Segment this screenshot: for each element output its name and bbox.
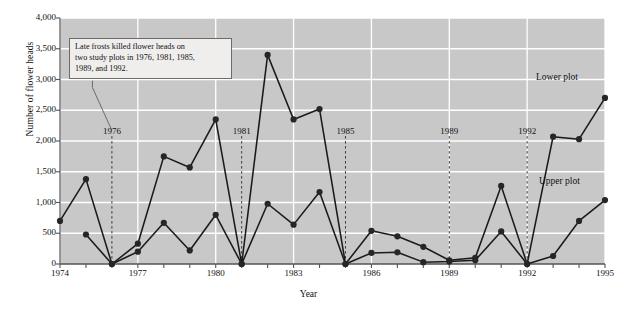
data-point <box>420 244 426 250</box>
x-axis-title: Year <box>0 289 617 299</box>
data-point <box>213 116 219 122</box>
annotation-line-3: 1989, and 1992. <box>75 64 226 75</box>
data-point <box>576 218 582 224</box>
data-point <box>135 241 141 247</box>
data-point <box>187 247 193 253</box>
x-tick-label: 1986 <box>351 268 391 278</box>
caption-edge-artifact <box>8 301 11 309</box>
data-point <box>109 261 115 267</box>
data-point <box>316 189 322 195</box>
data-point <box>187 164 193 170</box>
x-tick-label: 1992 <box>507 268 547 278</box>
data-point <box>290 116 296 122</box>
data-point <box>394 233 400 239</box>
data-point <box>83 231 89 237</box>
data-point <box>550 134 556 140</box>
data-point <box>602 95 608 101</box>
data-point <box>265 201 271 207</box>
frost-year-label-1989: 1989 <box>429 126 469 136</box>
data-point <box>135 249 141 255</box>
data-point <box>368 250 374 256</box>
annotation-line-1: Late frosts killed flower heads on <box>75 42 226 53</box>
frost-year-label-1976: 1976 <box>92 126 132 136</box>
annotation-callout: Late frosts killed flower heads on two s… <box>69 38 232 79</box>
lower-plot-series-label: Lower plot <box>536 72 578 82</box>
data-point <box>368 228 374 234</box>
frost-year-label-1992: 1992 <box>507 126 547 136</box>
frost-year-label-1985: 1985 <box>325 126 365 136</box>
annotation-line-2: two study plots in 1976, 1981, 1985, <box>75 53 226 64</box>
data-point <box>498 183 504 189</box>
data-point <box>161 220 167 226</box>
data-point <box>316 106 322 112</box>
data-point <box>498 228 504 234</box>
x-tick-label: 1983 <box>274 268 314 278</box>
data-point <box>161 153 167 159</box>
chart-figure: Number of flower heads 05001,0001,5002,0… <box>0 0 617 315</box>
data-point <box>576 136 582 142</box>
x-tick-label: 1977 <box>118 268 158 278</box>
frost-year-label-1981: 1981 <box>222 126 262 136</box>
data-point <box>265 52 271 58</box>
data-point <box>472 257 478 263</box>
data-point <box>550 253 556 259</box>
data-point <box>524 261 530 267</box>
data-point <box>602 197 608 203</box>
data-point <box>446 258 452 264</box>
data-point <box>57 218 63 224</box>
data-point <box>213 212 219 218</box>
x-tick-label: 1995 <box>585 268 617 278</box>
x-tick-label: 1974 <box>40 268 80 278</box>
data-point <box>342 261 348 267</box>
data-point <box>420 259 426 265</box>
data-point <box>239 261 245 267</box>
data-point <box>394 249 400 255</box>
upper-plot-series-label: Upper plot <box>539 176 580 186</box>
x-tick-label: 1989 <box>429 268 469 278</box>
x-tick-label: 1980 <box>196 268 236 278</box>
data-point <box>290 222 296 228</box>
data-point <box>83 176 89 182</box>
